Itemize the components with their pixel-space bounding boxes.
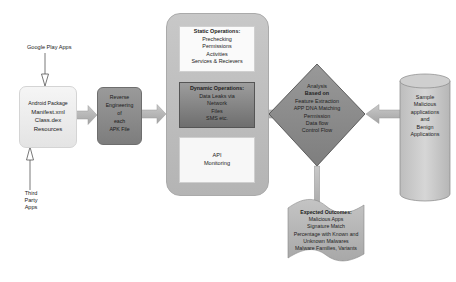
analysis-label: Analysis Based on Feature Extraction APP… [280, 83, 354, 135]
reverse-line: Reverse [97, 93, 142, 101]
analysis-title: Analysis [280, 83, 354, 90]
arrow-reverse-to-ops-icon [141, 105, 166, 124]
reverse-line: APK File [97, 125, 142, 133]
dynamic-line: Data Leaks via [179, 93, 255, 101]
samples-line: and [400, 116, 450, 123]
samples-line: Malicious [400, 101, 450, 108]
api-line: API [179, 151, 255, 159]
dynamic-operations-label: Dynamic Operations: Data Leaks via Netwo… [179, 85, 255, 123]
outcomes-label: Expected Outcomes: Malicious Apps Signat… [288, 209, 364, 252]
third-party-line: Third [22, 190, 40, 197]
static-line: Prechecking [179, 36, 255, 44]
dynamic-line: Files [179, 108, 255, 116]
analysis-line: Data flow [280, 120, 354, 127]
outcomes-line: Malware Families, Variants [288, 245, 364, 252]
outcomes-title: Expected Outcomes: [288, 209, 364, 216]
google-play-apps-label: Google Play Apps [27, 44, 67, 51]
arrow-samples-to-analysis-icon [366, 105, 402, 124]
api-monitoring-label: API Monitoring [179, 151, 255, 167]
third-party-line: Party [22, 197, 40, 204]
android-package-label: Android Package Manifest.xml Class.dex R… [19, 99, 77, 133]
analysis-title: Based on [280, 90, 354, 97]
third-party-arrow-icon [27, 147, 34, 190]
package-line: Manifest.xml [19, 108, 77, 117]
google-play-apps-text: Google Play Apps [27, 44, 67, 51]
dynamic-line: SMS etc. [179, 115, 255, 123]
static-line: Permissions [179, 43, 255, 51]
dynamic-operations-title: Dynamic Operations: [179, 85, 255, 93]
static-line: Services & Recievers [179, 58, 255, 66]
samples-line: applications [400, 109, 450, 116]
api-line: Monitoring [179, 159, 255, 167]
outcomes-line: Unknown Malwares [288, 238, 364, 245]
analysis-line: Permission [280, 113, 354, 120]
samples-line: Applications [400, 131, 450, 138]
static-operations-label: Static Operations: Prechecking Permissio… [179, 28, 255, 66]
reverse-line: Engineering [97, 101, 142, 109]
third-party-line: Apps [22, 204, 40, 211]
outcomes-line: Malicious Apps [288, 216, 364, 223]
analysis-line: APP DNA Matching [280, 105, 354, 112]
static-line: Activities [179, 51, 255, 59]
outcomes-line: Signature Match [288, 223, 364, 230]
reverse-line: of [97, 109, 142, 117]
third-party-apps-label: Third Party Apps [22, 190, 40, 212]
outcomes-line: Percentage with Known and [288, 231, 364, 238]
analysis-line: Feature Extraction [280, 98, 354, 105]
google-play-arrow-icon [42, 53, 49, 86]
dynamic-line: Network [179, 100, 255, 108]
package-line: Resources [19, 125, 77, 134]
samples-line: Sample [400, 94, 450, 101]
package-line: Class.dex [19, 116, 77, 125]
package-line: Android Package [19, 99, 77, 108]
analysis-line: Control Flow [280, 127, 354, 134]
samples-label: Sample Malicious applications and Benign… [400, 94, 450, 138]
reverse-line: each [97, 117, 142, 125]
samples-line: Benign [400, 124, 450, 131]
arrow-package-to-reverse-icon [76, 106, 97, 125]
reverse-engineering-label: Reverse Engineering of each APK File [97, 93, 142, 133]
static-operations-title: Static Operations: [179, 28, 255, 36]
